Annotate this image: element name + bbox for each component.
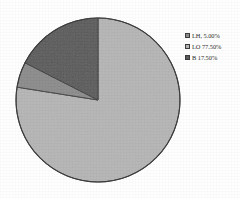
legend-item-lo[interactable]: LO 77.50% [185,42,240,53]
pie-plot-area [0,0,186,198]
pie-chart-figure: LH, 5.00% LO 77.50% B 17.50% [0,0,240,198]
legend-swatch-icon-lo [185,44,190,49]
legend-item-b[interactable]: B 17.50% [185,53,240,64]
legend-swatch-icon-lh [185,33,190,38]
pie-svg [0,0,186,198]
legend-label-lh: LH, 5.00% [192,31,220,40]
legend: LH, 5.00% LO 77.50% B 17.50% [185,31,240,64]
legend-label-b: B 17.50% [192,53,217,62]
legend-label-lo: LO 77.50% [192,42,221,51]
legend-item-lh[interactable]: LH, 5.00% [185,31,240,42]
pie-slices-group [16,18,180,182]
legend-swatch-icon-b [185,55,190,60]
